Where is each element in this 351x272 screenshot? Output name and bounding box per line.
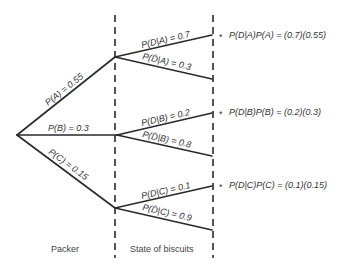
label-P-D-given-A: P(D|A) = 0.7 bbox=[140, 29, 192, 50]
probability-tree-diagram: P(A) = 0.55 P(B) = 0.3 P(C) = 0.15 P(D|A… bbox=[0, 0, 351, 272]
label-P-C: P(C) = 0.15 bbox=[47, 147, 91, 183]
caption-state-of-biscuits: State of biscuits bbox=[130, 244, 194, 254]
label-P-A: P(A) = 0.55 bbox=[43, 71, 86, 108]
branch-C bbox=[17, 135, 115, 208]
label-P-B: P(B) = 0.3 bbox=[48, 123, 89, 133]
marker-B: * bbox=[219, 109, 223, 119]
caption-packer: Packer bbox=[51, 244, 79, 254]
result-C: P(D|C)P(C) = (0.1)(0.15) bbox=[229, 180, 327, 190]
marker-A: * bbox=[219, 32, 223, 42]
label-P-D-given-B: P(D|B) = 0.2 bbox=[140, 107, 191, 128]
result-B: P(D|B)P(B) = (0.2)(0.3) bbox=[229, 107, 321, 117]
marker-C: * bbox=[219, 182, 223, 192]
label-P-D-given-C: P(D|C) = 0.1 bbox=[140, 180, 191, 201]
result-A: P(D|A)P(A) = (0.7)(0.55) bbox=[229, 30, 326, 40]
